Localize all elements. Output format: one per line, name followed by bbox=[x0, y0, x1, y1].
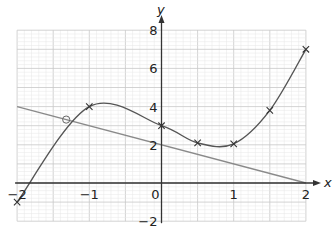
x-axis-arrow-icon bbox=[313, 180, 321, 186]
x-tick-label: 0 bbox=[151, 187, 159, 202]
y-tick-label: 8 bbox=[149, 23, 157, 38]
y-tick-label: −2 bbox=[138, 214, 157, 229]
axes bbox=[15, 15, 321, 223]
cubic-graph-chart: −2−1012−22468 x y bbox=[0, 0, 336, 236]
y-axis-label: y bbox=[156, 2, 165, 17]
x-axis-label: x bbox=[323, 175, 332, 190]
y-tick-label: 4 bbox=[149, 100, 157, 115]
x-tick-label: −1 bbox=[80, 187, 99, 202]
x-tick-label: 1 bbox=[230, 187, 238, 202]
x-tick-label: −2 bbox=[8, 187, 27, 202]
y-tick-label: 2 bbox=[149, 138, 157, 153]
x-tick-label: 2 bbox=[302, 187, 310, 202]
y-tick-label: 6 bbox=[149, 61, 157, 76]
